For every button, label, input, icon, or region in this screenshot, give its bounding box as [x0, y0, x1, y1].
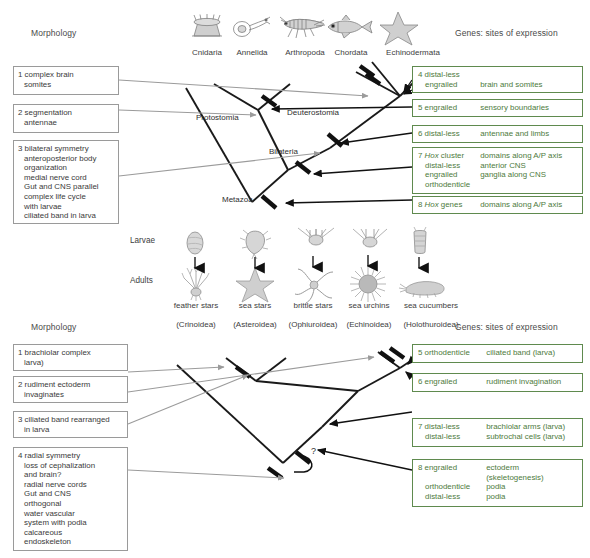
b-gene-8-gene-0: engrailed	[425, 463, 457, 472]
b-gene-8-site-1: (skeletogenesis)	[486, 473, 543, 483]
bottom-gene-box-5[interactable]: 5 orthodenticle ciliated band (larva)	[412, 344, 583, 363]
b-gene-7-gene-0: distal-less	[425, 422, 460, 431]
bottom-gene-box-8[interactable]: 8 engrailed ectoderm (skeletogenesis) or…	[412, 459, 583, 507]
b-gene-6-num: 6	[418, 377, 422, 386]
b-morph-4-line-0: radial symmetry	[25, 451, 81, 460]
bottom-morphology-box-3[interactable]: 3 ciliated band rearranged in larva	[13, 411, 128, 438]
b-morph-2-line-1: invaginates	[18, 390, 123, 400]
bottom-morphology-box-2[interactable]: 2 rudiment ectoderm invaginates	[13, 376, 128, 403]
b-gene-5-num: 5	[418, 348, 422, 357]
b-morph-4-line-6: water vascular	[18, 509, 123, 519]
b-morph-3-line-1: in larva	[18, 425, 123, 435]
b-gene-8-num: 8	[418, 463, 422, 472]
b-morph-4-line-2: and brain?	[18, 470, 123, 480]
b-morph-4-line-3: radial nerve cords	[18, 480, 123, 490]
b-gene-5-gene-0: orthodenticle	[425, 348, 470, 357]
b-morph-4-line-1: loss of cephalization	[18, 461, 123, 471]
b-morph-1-line-1: larva)	[18, 358, 123, 368]
figure-canvas: Morphology Genes: sites of expression	[0, 0, 590, 558]
uncertainty-question-mark: ?	[311, 446, 316, 456]
b-morph-4-line-4: Gut and CNS	[18, 489, 123, 499]
b-gene-5-site-0: ciliated band (larva)	[486, 348, 555, 358]
b-morph-4-line-9: endoskeleton	[18, 537, 123, 547]
b-gene-8-gene-2: orthodenticle	[418, 482, 484, 492]
bottom-gene-box-6[interactable]: 6 engrailed rudiment invagination	[412, 373, 583, 392]
b-morph-4-line-5: orthogonal	[18, 499, 123, 509]
b-morph-4-line-8: calcareous	[18, 528, 123, 538]
b-gene-8-site-3: podia	[486, 492, 505, 502]
b-morph-4-line-7: system with podia	[18, 518, 123, 528]
b-morph-3-line-0: ciliated band rearranged	[25, 415, 110, 424]
b-morph-4-num: 4	[18, 451, 22, 460]
b-gene-8-site-2: podia	[486, 482, 505, 492]
b-gene-7-gene-1: distal-less	[418, 432, 484, 442]
b-morph-1-line-0: brachiolar complex	[25, 348, 91, 357]
bottom-morphology-box-4[interactable]: 4 radial symmetry loss of cephalization …	[13, 447, 128, 551]
b-morph-1-num: 1	[18, 348, 22, 357]
b-morph-3-num: 3	[18, 415, 22, 424]
b-gene-6-site-0: rudiment invagination	[486, 377, 561, 387]
b-gene-8-site-0: ectoderm	[486, 463, 519, 473]
b-gene-7-site-1: subtrochal cells (larva)	[486, 432, 565, 442]
b-gene-8-gene-3: distal-less	[418, 492, 484, 502]
b-gene-7-num: 7	[418, 422, 422, 431]
bottom-morphology-box-1[interactable]: 1 brachiolar complex larva)	[13, 344, 128, 371]
b-gene-7-site-0: brachiolar arms (larva)	[486, 422, 565, 432]
b-morph-2-line-0: rudiment ectoderm	[25, 380, 91, 389]
bottom-gene-box-7[interactable]: 7 distal-less brachiolar arms (larva) di…	[412, 418, 583, 447]
b-gene-6-gene-0: engrailed	[425, 377, 457, 386]
b-morph-2-num: 2	[18, 380, 22, 389]
